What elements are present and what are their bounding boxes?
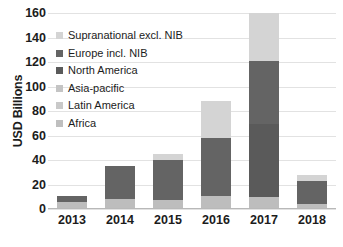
bar-group[interactable] (153, 154, 183, 209)
gridline (48, 136, 336, 137)
chart-legend: Supranational excl. NIBEurope incl. NIBN… (56, 27, 236, 132)
legend-label: Supranational excl. NIB (68, 30, 183, 41)
legend-label: Africa (68, 118, 96, 129)
legend-item[interactable]: Latin America (56, 97, 236, 115)
legend-label: Latin America (68, 100, 135, 111)
legend-swatch-icon (56, 120, 63, 127)
legend-item[interactable]: North America (56, 62, 236, 80)
legend-label: Europe incl. NIB (68, 48, 147, 59)
y-tick-label: 160 (6, 7, 46, 20)
bar-segment[interactable] (249, 124, 279, 196)
x-tick-label: 2017 (240, 214, 288, 227)
legend-item[interactable]: Supranational excl. NIB (56, 27, 236, 45)
bar-segment[interactable] (105, 166, 135, 199)
stacked-bar-chart: USD Billions 020406080100120140160 20132… (0, 0, 343, 247)
legend-swatch-icon (56, 102, 63, 109)
y-tick-label: 0 (6, 203, 46, 216)
y-tick-label: 40 (6, 154, 46, 167)
gridline (48, 185, 336, 186)
bar-segment[interactable] (153, 160, 183, 200)
bar-segment[interactable] (57, 196, 87, 202)
bar-segment[interactable] (153, 154, 183, 160)
bar-segment[interactable] (297, 181, 327, 204)
y-tick-label: 140 (6, 32, 46, 45)
legend-label: North America (68, 65, 138, 76)
gridline (48, 160, 336, 161)
x-tick-label: 2015 (144, 214, 192, 227)
x-tick-label: 2013 (48, 214, 96, 227)
y-tick-label: 20 (6, 179, 46, 192)
x-axis-line (48, 208, 336, 209)
x-tick-label: 2018 (288, 214, 336, 227)
gridline (48, 209, 336, 210)
legend-swatch-icon (56, 67, 63, 74)
y-tick-label: 100 (6, 81, 46, 94)
x-tick-label: 2014 (96, 214, 144, 227)
bar-segment[interactable] (201, 196, 231, 209)
bar-segment[interactable] (249, 61, 279, 125)
bar-group[interactable] (249, 13, 279, 209)
bar-segment[interactable] (249, 13, 279, 61)
x-axis-tick-labels: 201320142015201620172018 (48, 214, 336, 238)
legend-item[interactable]: Asia-pacific (56, 80, 236, 98)
legend-item[interactable]: Europe incl. NIB (56, 45, 236, 63)
bar-group[interactable] (57, 196, 87, 209)
y-tick-label: 80 (6, 105, 46, 118)
legend-swatch-icon (56, 85, 63, 92)
gridline (48, 13, 336, 14)
legend-label: Asia-pacific (68, 83, 124, 94)
bar-segment[interactable] (201, 138, 231, 196)
bar-group[interactable] (105, 166, 135, 209)
legend-swatch-icon (56, 32, 63, 39)
bar-group[interactable] (297, 175, 327, 209)
legend-item[interactable]: Africa (56, 115, 236, 133)
x-tick-label: 2016 (192, 214, 240, 227)
y-tick-label: 60 (6, 130, 46, 143)
y-axis-tick-labels: 020406080100120140160 (0, 0, 46, 247)
bar-segment[interactable] (297, 175, 327, 181)
legend-swatch-icon (56, 50, 63, 57)
y-tick-label: 120 (6, 56, 46, 69)
